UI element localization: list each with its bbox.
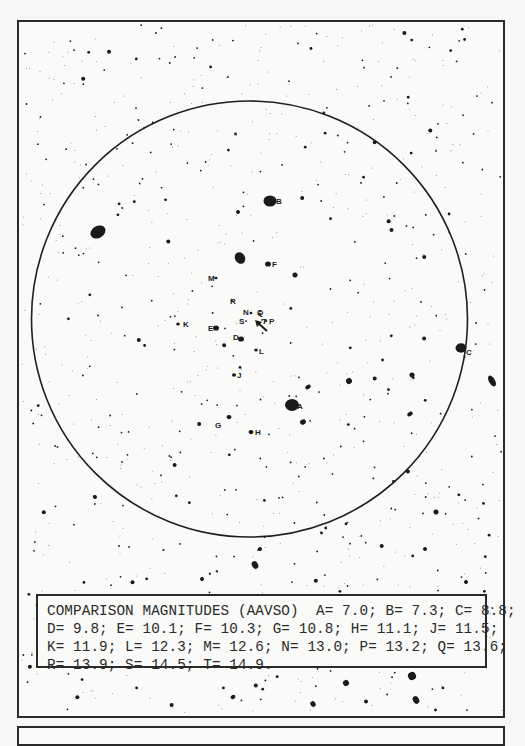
comparison-star-label: F bbox=[272, 260, 277, 269]
bright-star bbox=[233, 250, 248, 265]
comparison-star-label: C bbox=[466, 348, 472, 357]
bright-star bbox=[309, 700, 316, 708]
bright-star bbox=[345, 377, 353, 385]
comparison-star-f bbox=[265, 261, 271, 266]
comparison-star-label: A bbox=[297, 402, 303, 411]
magnitudes-line-2: D= 9.8; E= 10.1; F= 10.3; G= 10.8; H= 11… bbox=[47, 620, 485, 638]
bright-star bbox=[230, 694, 236, 700]
comparison-star-label: N bbox=[243, 308, 249, 317]
comparison-magnitudes-box: COMPARISON MAGNITUDES (AAVSO) A= 7.0; B=… bbox=[36, 594, 487, 668]
bright-star bbox=[411, 695, 420, 705]
comparison-star-label: B bbox=[276, 197, 282, 206]
comparison-star-l bbox=[254, 348, 258, 351]
bright-star bbox=[292, 272, 299, 279]
bright-star bbox=[257, 546, 262, 551]
comparison-star-k bbox=[176, 322, 180, 325]
bright-star bbox=[299, 418, 307, 425]
comparison-star-label: E bbox=[208, 324, 214, 333]
comparison-star-label: T bbox=[262, 317, 267, 326]
comparison-star-label: R bbox=[230, 297, 236, 306]
lower-panel-edge bbox=[17, 726, 505, 746]
comparison-star-label: D bbox=[233, 333, 239, 342]
comparison-star-label: H bbox=[255, 428, 261, 437]
bright-star bbox=[88, 223, 108, 241]
comparison-star-d bbox=[238, 336, 244, 341]
comparison-star-b bbox=[264, 195, 277, 206]
comparison-star-j bbox=[232, 373, 236, 376]
bright-star bbox=[199, 576, 204, 581]
comparison-star-e bbox=[213, 325, 219, 330]
comparison-star-label: L bbox=[259, 347, 264, 356]
comparison-star-label: J bbox=[237, 371, 241, 380]
bright-star bbox=[406, 411, 413, 417]
comparison-star-label: G bbox=[215, 421, 221, 430]
bright-star bbox=[486, 374, 497, 387]
magnitudes-line-4: R= 13.9; S= 14.5; T= 14.9. bbox=[47, 656, 485, 674]
comparison-star-m bbox=[214, 277, 217, 280]
comparison-star-n bbox=[250, 312, 253, 314]
comparison-star-h bbox=[249, 430, 254, 434]
magnitudes-line-1: COMPARISON MAGNITUDES (AAVSO) A= 7.0; B=… bbox=[47, 602, 485, 620]
magnitudes-line-3: K= 11.9; L= 12.3; M= 12.6; N= 13.0; P= 1… bbox=[47, 638, 485, 656]
comparison-star-label: Q bbox=[257, 308, 263, 317]
comparison-star-c bbox=[456, 343, 467, 352]
comparison-star-g bbox=[227, 415, 232, 419]
bright-star bbox=[342, 679, 350, 687]
comparison-star-label: S bbox=[239, 317, 245, 326]
bright-star bbox=[463, 579, 468, 584]
bright-star bbox=[235, 209, 240, 214]
comparison-stars: ABCDEFGHJKLMNPQRST bbox=[176, 195, 472, 437]
comparison-star-label: M bbox=[208, 274, 215, 283]
bright-star bbox=[304, 384, 311, 390]
bright-star bbox=[422, 546, 427, 551]
bright-star bbox=[250, 560, 259, 570]
field-of-view-circle bbox=[32, 101, 468, 537]
bright-star bbox=[92, 494, 97, 499]
comparison-star-label: K bbox=[183, 320, 189, 329]
comparison-star-s bbox=[245, 320, 247, 322]
comparison-star-label: P bbox=[269, 317, 275, 326]
bright-star bbox=[433, 509, 440, 516]
